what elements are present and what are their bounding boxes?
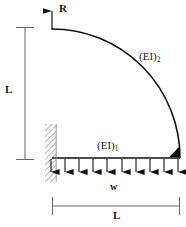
span-dimension-label: L: [113, 210, 120, 221]
support-hatching: [45, 124, 56, 182]
distributed-load-arrows: [51, 159, 178, 172]
distributed-load-label: w: [110, 182, 117, 192]
straight-beam-stiffness-subscript: 1: [115, 144, 119, 153]
engineering-beam-diagram: R L L w (EI)1 (EI)2: [0, 0, 186, 227]
fixed-support: [45, 124, 56, 182]
height-dimension-label: L: [5, 84, 12, 95]
curved-beam-stiffness-subscript: 2: [157, 55, 161, 64]
curved-beam-member: [52, 29, 180, 158]
diagram-canvas: [0, 0, 186, 227]
straight-beam-stiffness-label: (EI)1: [97, 140, 118, 151]
rigid-joint-gusset: [169, 146, 180, 157]
curved-beam-stiffness-label: (EI)2: [139, 51, 160, 62]
curved-beam-stiffness-prefix: (EI): [139, 50, 157, 62]
straight-beam-stiffness-prefix: (EI): [97, 139, 115, 151]
dimension-line-height: [16, 27, 34, 160]
reaction-force-label: R: [59, 3, 67, 14]
